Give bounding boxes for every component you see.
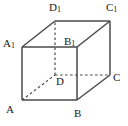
vertex-letter: C xyxy=(113,71,120,83)
vertex-letter: B xyxy=(74,107,81,119)
edge-a-d-hidden xyxy=(22,75,55,100)
vertex-subscript: 1 xyxy=(11,41,15,50)
vertex-label-a1: A1 xyxy=(3,38,15,49)
cube-diagram: ABCDA1B1C1D1 xyxy=(0,0,128,126)
vertex-subscript: 1 xyxy=(57,5,61,14)
cube-wireframe-svg xyxy=(0,0,128,126)
vertex-label-d: D xyxy=(56,76,64,87)
edge-b1-c1 xyxy=(77,21,110,47)
edge-a1-d1 xyxy=(22,21,55,47)
vertex-letter: D xyxy=(56,75,64,87)
edge-b-c xyxy=(77,75,110,100)
vertex-letter: A xyxy=(3,37,11,49)
vertex-label-d1: D1 xyxy=(49,2,61,13)
vertex-label-c1: C1 xyxy=(106,2,117,13)
vertex-subscript: 1 xyxy=(71,39,75,48)
vertex-label-b1: B1 xyxy=(64,36,75,47)
vertex-label-c: C xyxy=(113,72,120,83)
vertex-label-a: A xyxy=(6,104,14,115)
solid-edges-group xyxy=(22,21,110,100)
vertex-letter: A xyxy=(6,103,14,115)
vertex-label-b: B xyxy=(74,108,81,119)
vertex-letter: D xyxy=(49,1,57,13)
vertex-subscript: 1 xyxy=(113,5,117,14)
hidden-edges-group xyxy=(22,21,110,100)
